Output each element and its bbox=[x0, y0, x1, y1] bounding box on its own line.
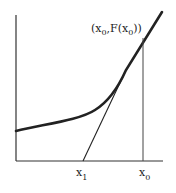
x0-label: x0 bbox=[139, 166, 150, 182]
x1-label: x1 bbox=[76, 166, 87, 182]
newton-method-diagram: (x0,F(x0)) x1 x0 bbox=[0, 0, 176, 193]
tangent-line bbox=[83, 70, 126, 161]
point-label: (x0,F(x0)) bbox=[91, 22, 142, 37]
